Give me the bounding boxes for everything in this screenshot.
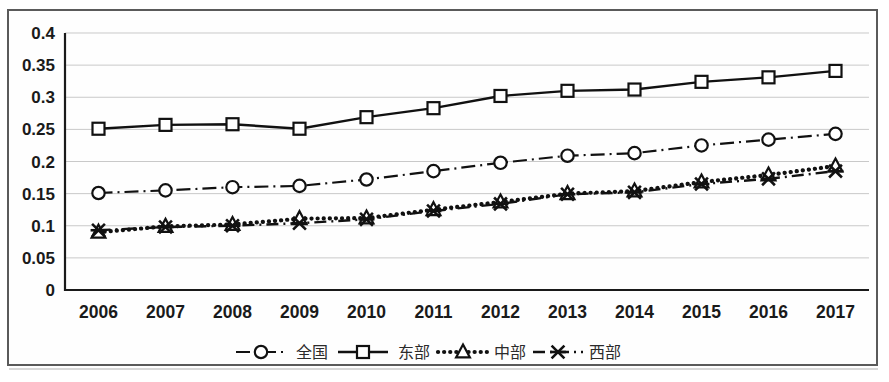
plot-area: 00.050.10.150.20.250.30.350.4 2006200720…: [0, 0, 889, 382]
y-axis-tick-label: 0.1: [31, 217, 55, 236]
data-point-marker-square: [830, 65, 842, 77]
data-point-marker-square: [160, 119, 172, 131]
series-line-path: [99, 134, 836, 193]
x-axis-tick-label: 2006: [79, 302, 118, 322]
data-point-marker-circle: [92, 187, 104, 199]
data-point-marker-square: [562, 85, 574, 97]
x-axis-tick-label: 2014: [615, 302, 654, 322]
data-point-marker-circle: [628, 147, 640, 159]
y-axis-tick-label: 0.3: [31, 88, 55, 107]
legend-label: 中部: [494, 343, 526, 362]
y-axis-tick-label: 0.05: [22, 249, 55, 268]
chart-legend: 全国东部中部西部: [236, 343, 621, 362]
data-point-marker-square: [696, 76, 708, 88]
data-point-marker-circle: [829, 128, 841, 140]
legend-label: 全国: [296, 343, 328, 362]
data-point-marker-square: [357, 346, 369, 358]
legend-item-4[interactable]: 西部: [533, 343, 621, 362]
data-point-marker-circle: [762, 133, 774, 145]
data-point-marker-circle: [255, 346, 267, 358]
x-axis-tick-label: 2008: [213, 302, 252, 322]
data-point-marker-square: [227, 118, 239, 130]
x-axis-tick-label: 2010: [347, 302, 386, 322]
y-axis-tick-label: 0: [46, 281, 55, 300]
y-axis-tick-label: 0.35: [22, 56, 55, 75]
x-axis-tick-label: 2013: [548, 302, 587, 322]
y-axis-tick-label: 0.2: [31, 153, 55, 172]
data-point-marker-circle: [427, 165, 439, 177]
x-axis-tick-label: 2007: [146, 302, 185, 322]
x-axis-tick-labels: 2006200720082009201020112012201320142015…: [79, 302, 855, 322]
data-point-marker-circle: [293, 180, 305, 192]
gridlines: [65, 33, 869, 290]
data-point-marker-circle: [226, 181, 238, 193]
y-axis-tick-label: 0.15: [22, 185, 55, 204]
series-2: [93, 65, 842, 135]
x-axis-tick-label: 2012: [481, 302, 520, 322]
data-point-marker-square: [629, 84, 641, 96]
data-point-marker-circle: [360, 173, 372, 185]
series-1: [92, 128, 841, 200]
data-point-marker-square: [495, 90, 507, 102]
legend-item-3[interactable]: 中部: [438, 343, 526, 362]
x-axis-tick-label: 2011: [415, 302, 453, 322]
legend-label: 西部: [589, 343, 621, 362]
series-line-path: [99, 166, 836, 232]
chart-figure: 00.050.10.150.20.250.30.350.4 2006200720…: [0, 0, 889, 382]
data-point-marker-circle: [695, 139, 707, 151]
series-line-path: [99, 71, 836, 129]
legend-label: 东部: [398, 343, 430, 362]
x-axis-tick-label: 2009: [280, 302, 319, 322]
data-point-marker-square: [763, 71, 775, 83]
data-point-marker-circle: [494, 157, 506, 169]
line-chart-svg: 00.050.10.150.20.250.30.350.4 2006200720…: [0, 0, 889, 382]
data-point-marker-circle: [159, 184, 171, 196]
x-axis-tick-label: 2015: [682, 302, 721, 322]
data-point-marker-circle: [561, 150, 573, 162]
data-point-marker-square: [428, 102, 440, 114]
y-axis-tick-labels: 00.050.10.150.20.250.30.350.4: [22, 24, 56, 300]
legend-item-2[interactable]: 东部: [338, 343, 430, 362]
data-point-marker-x: [550, 346, 566, 359]
data-point-marker-square: [294, 123, 306, 135]
data-series-group: [91, 65, 844, 238]
data-point-marker-square: [93, 123, 105, 135]
y-axis-tick-label: 0.25: [22, 120, 55, 139]
x-axis-tick-label: 2017: [816, 302, 855, 322]
data-point-marker-square: [361, 111, 373, 123]
y-axis-tick-label: 0.4: [31, 24, 55, 43]
x-axis-tick-label: 2016: [749, 302, 788, 322]
legend-item-1[interactable]: 全国: [236, 343, 328, 362]
